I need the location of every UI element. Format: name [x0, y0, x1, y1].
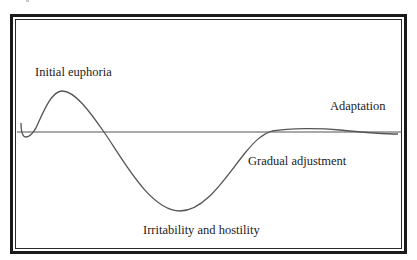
label-adaptation: Adaptation	[330, 100, 386, 113]
label-irritability-and-hostility: Irritability and hostility	[143, 224, 260, 237]
label-gradual-adjustment: Gradual adjustment	[248, 155, 346, 168]
diagram-canvas	[0, 0, 417, 260]
label-initial-euphoria: Initial euphoria	[35, 66, 112, 79]
